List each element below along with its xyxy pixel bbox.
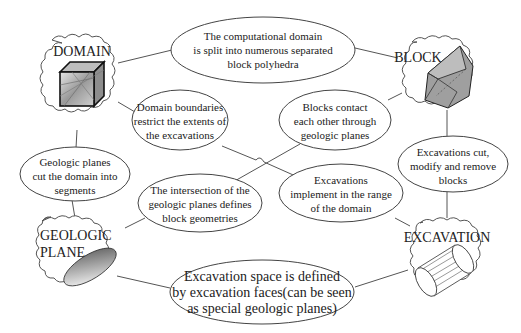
relation-text: Blocks contact — [302, 101, 367, 113]
excavation-label: EXCAVATION — [404, 230, 491, 245]
relation-text: by excavation faces(can be seen — [172, 285, 352, 301]
relation-text: The computational domain — [204, 30, 323, 42]
relation-plane-block[interactable]: The intersection of the geologic planes … — [138, 174, 262, 232]
relation-block-plane[interactable]: Blocks contact each other through geolog… — [279, 90, 391, 150]
relation-text: block polyhedra — [227, 58, 298, 70]
edge-domain-top — [118, 50, 172, 63]
relation-text: Excavations cut, — [417, 146, 490, 158]
relation-text: The intersection of the — [150, 184, 249, 196]
relation-text: Domain boundaries — [137, 101, 223, 113]
edge-geoplane-intersection — [125, 218, 145, 228]
relation-text: cut the domain into — [32, 170, 118, 182]
relation-text: Excavation space is defined — [184, 269, 340, 284]
domain-label: DOMAIN — [53, 44, 111, 59]
relation-text: block geometries — [162, 212, 237, 224]
relation-excavation-domain[interactable]: Excavations implement in the range of th… — [279, 164, 403, 222]
concept-block[interactable]: BLOCK — [394, 36, 473, 108]
edge-geoplane-space — [117, 276, 170, 288]
relation-excavation-plane[interactable]: Excavation space is defined by excavatio… — [170, 260, 354, 324]
concept-domain[interactable]: DOMAIN — [40, 34, 115, 112]
relation-text: implement in the range — [290, 188, 392, 200]
edge-domain-bound — [118, 102, 135, 112]
relation-excavation-block[interactable]: Excavations cut, modify and remove block… — [398, 136, 508, 192]
relation-text: of the domain — [310, 202, 372, 214]
relation-text: Excavations — [314, 174, 368, 186]
block-label: BLOCK — [394, 50, 441, 65]
relation-domain-excavation[interactable]: Domain boundaries restrict the extents o… — [132, 90, 228, 150]
relation-text: segments — [55, 184, 96, 196]
cube-icon — [60, 62, 104, 106]
relation-text: as special geologic planes) — [187, 301, 337, 317]
relation-domain-block[interactable]: The computational domain is split into n… — [171, 17, 355, 83]
edge-domain-geo — [76, 130, 77, 148]
relation-text: is split into numerous separated — [193, 44, 333, 56]
relation-text: Geologic planes — [39, 156, 110, 168]
edge-space-excavation — [355, 270, 408, 287]
relation-text: the excavations — [146, 129, 214, 141]
geologic-plane-label-line2: PLANE — [40, 245, 85, 260]
relation-text: modify and remove — [410, 160, 496, 172]
relation-text: geologic planes — [301, 129, 370, 141]
concept-geologic-plane[interactable]: GEOLOGIC PLANE — [36, 216, 122, 293]
concept-excavation[interactable]: EXCAVATION — [404, 218, 491, 300]
edge-block-contact — [388, 93, 402, 100]
relation-text: each other through — [294, 115, 377, 127]
edge-top-block — [355, 48, 398, 58]
relation-text: blocks — [439, 174, 468, 186]
relation-text: geologic planes defines — [148, 198, 251, 210]
relation-plane-domain[interactable]: Geologic planes cut the domain into segm… — [20, 147, 130, 201]
geologic-plane-label-line1: GEOLOGIC — [40, 228, 112, 243]
concept-diagram: DOMAIN BLOCK GEOLOGIC PLANE — [0, 0, 521, 333]
edge-implement-excavation — [395, 218, 410, 226]
relation-text: restrict the extents of — [134, 115, 227, 127]
